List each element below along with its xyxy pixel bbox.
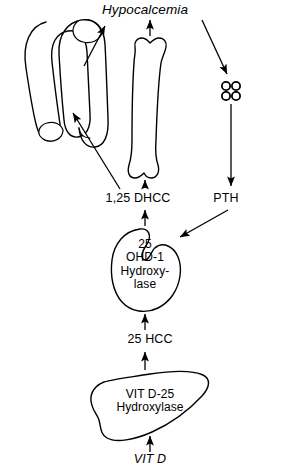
label-hypocalcemia: Hypocalcemia xyxy=(0,2,290,17)
label-vit-d: VIT D xyxy=(90,452,210,466)
kidney-enzyme-line-3: Hydroxy- xyxy=(112,265,178,278)
liver-enzyme-line-1: VIT D-25 xyxy=(95,388,205,401)
bone-icon xyxy=(128,38,166,178)
vitamin-d-metabolism-diagram: Hypocalcemia 1,25 DHCC PTH 25 HCC VIT D … xyxy=(0,0,290,470)
label-liver-enzyme: VIT D-25 Hydroxylase xyxy=(95,388,205,415)
label-25-hcc: 25 HCC xyxy=(90,332,210,346)
label-1-25-dhcc: 1,25 DHCC xyxy=(78,191,198,205)
parathyroid-glands-icon xyxy=(222,82,240,100)
arrow-hypocalcemia-to-parathyroid xyxy=(202,20,227,74)
label-kidney-enzyme: 25 OHD-1 Hydroxy- lase xyxy=(112,238,178,292)
kidney-enzyme-line-2: OHD-1 xyxy=(112,251,178,264)
liver-enzyme-line-2: Hydroxylase xyxy=(95,401,205,414)
intestine-icon xyxy=(25,20,108,147)
arrow-pth-to-kidney xyxy=(180,210,228,237)
label-pth: PTH xyxy=(196,191,256,205)
kidney-enzyme-line-1: 25 xyxy=(112,238,178,251)
kidney-enzyme-line-4: lase xyxy=(112,278,178,291)
